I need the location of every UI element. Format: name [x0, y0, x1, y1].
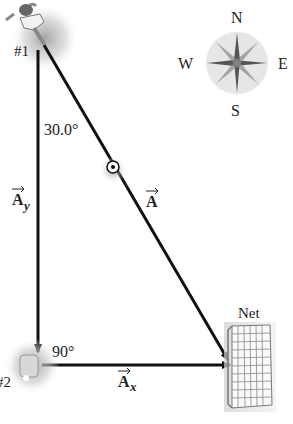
svg-text:A: A — [12, 191, 24, 208]
compass-west: W — [178, 55, 194, 72]
soccer-vector-diagram: #1 N S E W 30.0° 90° A A y A x — [0, 0, 293, 424]
player-1-label: #1 — [14, 43, 29, 59]
svg-text:A: A — [118, 373, 130, 390]
player-1-figure — [6, 4, 79, 72]
svg-text:x: x — [129, 379, 137, 394]
vector-ay-label: A y — [12, 186, 30, 213]
vector-a-label: A — [146, 188, 158, 210]
vector-ax-label: A x — [118, 368, 137, 394]
compass-rose-icon — [206, 32, 268, 94]
svg-text:A: A — [146, 193, 158, 210]
player-2-label: #2 — [0, 374, 11, 390]
net-label: Net — [238, 305, 260, 321]
soccer-net-icon — [224, 322, 276, 412]
compass-south: S — [231, 102, 240, 119]
player-2-figure — [4, 338, 60, 394]
soccer-ball-icon — [99, 156, 127, 184]
angle-30-label: 30.0° — [44, 121, 78, 138]
vector-a-arrow — [44, 45, 228, 360]
compass-north: N — [231, 9, 243, 26]
compass-east: E — [278, 55, 288, 72]
svg-text:y: y — [22, 198, 30, 213]
